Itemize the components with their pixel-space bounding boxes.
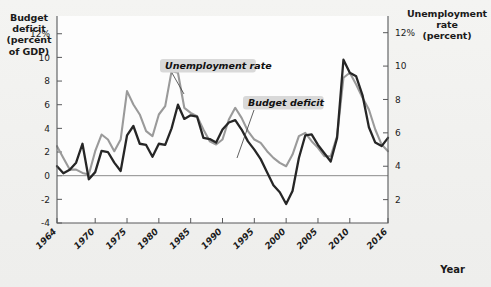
svg-text:2016: 2016 <box>365 226 390 251</box>
svg-text:1980: 1980 <box>135 226 160 251</box>
callout-unemployment-text: Unemployment rate <box>165 60 272 71</box>
svg-text:2: 2 <box>44 147 50 157</box>
svg-text:1990: 1990 <box>199 226 224 251</box>
svg-text:10: 10 <box>395 61 407 71</box>
line-chart: 12%1086420-2-4 12%108642 196419701975198… <box>0 0 491 287</box>
svg-text:1970: 1970 <box>72 226 97 251</box>
svg-text:12%: 12% <box>30 29 50 39</box>
svg-text:6: 6 <box>395 128 401 138</box>
figure-canvas: Budgetdeficit(percentof GDP) Unemploymen… <box>0 0 491 287</box>
svg-text:2000: 2000 <box>263 226 288 251</box>
svg-text:-4: -4 <box>41 218 50 228</box>
svg-text:8: 8 <box>44 76 50 86</box>
svg-text:6: 6 <box>44 100 50 110</box>
svg-text:4: 4 <box>44 124 50 134</box>
svg-text:2010: 2010 <box>326 226 351 251</box>
svg-text:8: 8 <box>395 95 401 105</box>
svg-text:1985: 1985 <box>167 226 192 251</box>
svg-text:1964: 1964 <box>34 226 59 251</box>
svg-text:12%: 12% <box>395 28 415 38</box>
svg-text:10: 10 <box>39 53 51 63</box>
svg-text:1975: 1975 <box>104 226 129 251</box>
svg-text:4: 4 <box>395 161 401 171</box>
svg-text:2005: 2005 <box>295 226 320 251</box>
svg-text:2: 2 <box>395 195 401 205</box>
svg-text:-2: -2 <box>41 195 50 205</box>
svg-text:1995: 1995 <box>231 226 256 251</box>
svg-text:0: 0 <box>44 171 50 181</box>
callout-deficit-text: Budget deficit <box>248 97 325 108</box>
